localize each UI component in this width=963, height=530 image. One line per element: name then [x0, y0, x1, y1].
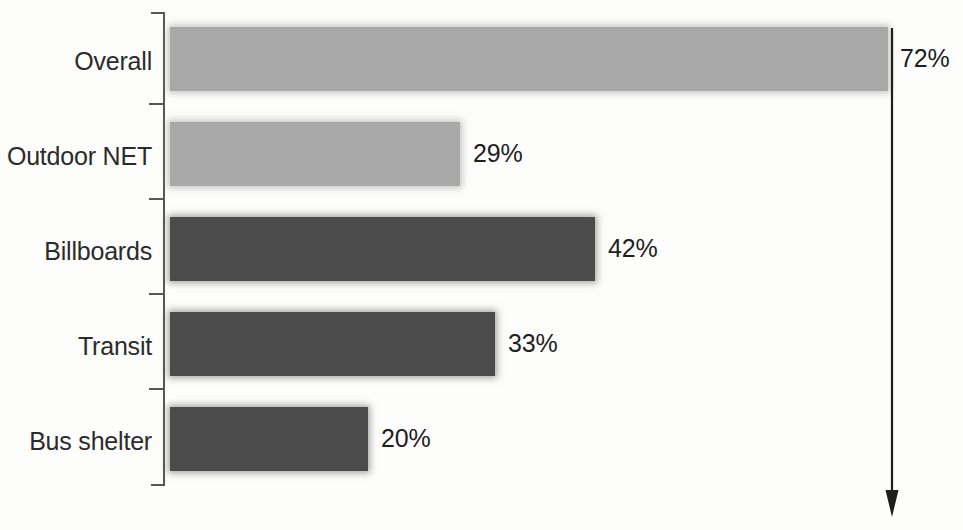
bar-fill-4 [170, 407, 368, 471]
category-axis-cap-bottom [151, 484, 165, 486]
reference-arrow-icon [885, 28, 899, 518]
axis-tick-1 [149, 198, 165, 200]
bar-fill-3 [170, 312, 495, 376]
axis-tick-3 [149, 388, 165, 390]
value-label-0: 72% [900, 46, 949, 71]
bar-chart: OverallOutdoor NETBillboardsTransitBus s… [0, 0, 963, 530]
category-axis-line [163, 12, 165, 486]
bar-fill-2 [170, 217, 595, 281]
value-label-2: 42% [608, 236, 657, 261]
bar-2 [170, 217, 595, 281]
bar-4 [170, 407, 368, 471]
category-label-0: Overall [74, 49, 152, 74]
value-label-1: 29% [473, 141, 522, 166]
category-label-3: Transit [78, 334, 152, 359]
category-label-1: Outdoor NET [7, 144, 152, 169]
axis-tick-2 [149, 293, 165, 295]
axis-tick-0 [149, 103, 165, 105]
category-label-4: Bus shelter [29, 429, 152, 454]
bar-fill-0 [170, 27, 888, 91]
bar-fill-1 [170, 122, 460, 186]
value-label-3: 33% [508, 331, 557, 356]
category-axis-cap-top [151, 12, 165, 14]
value-label-4: 20% [381, 426, 430, 451]
bar-3 [170, 312, 495, 376]
bar-0 [170, 27, 888, 91]
category-label-2: Billboards [44, 239, 152, 264]
bar-1 [170, 122, 460, 186]
